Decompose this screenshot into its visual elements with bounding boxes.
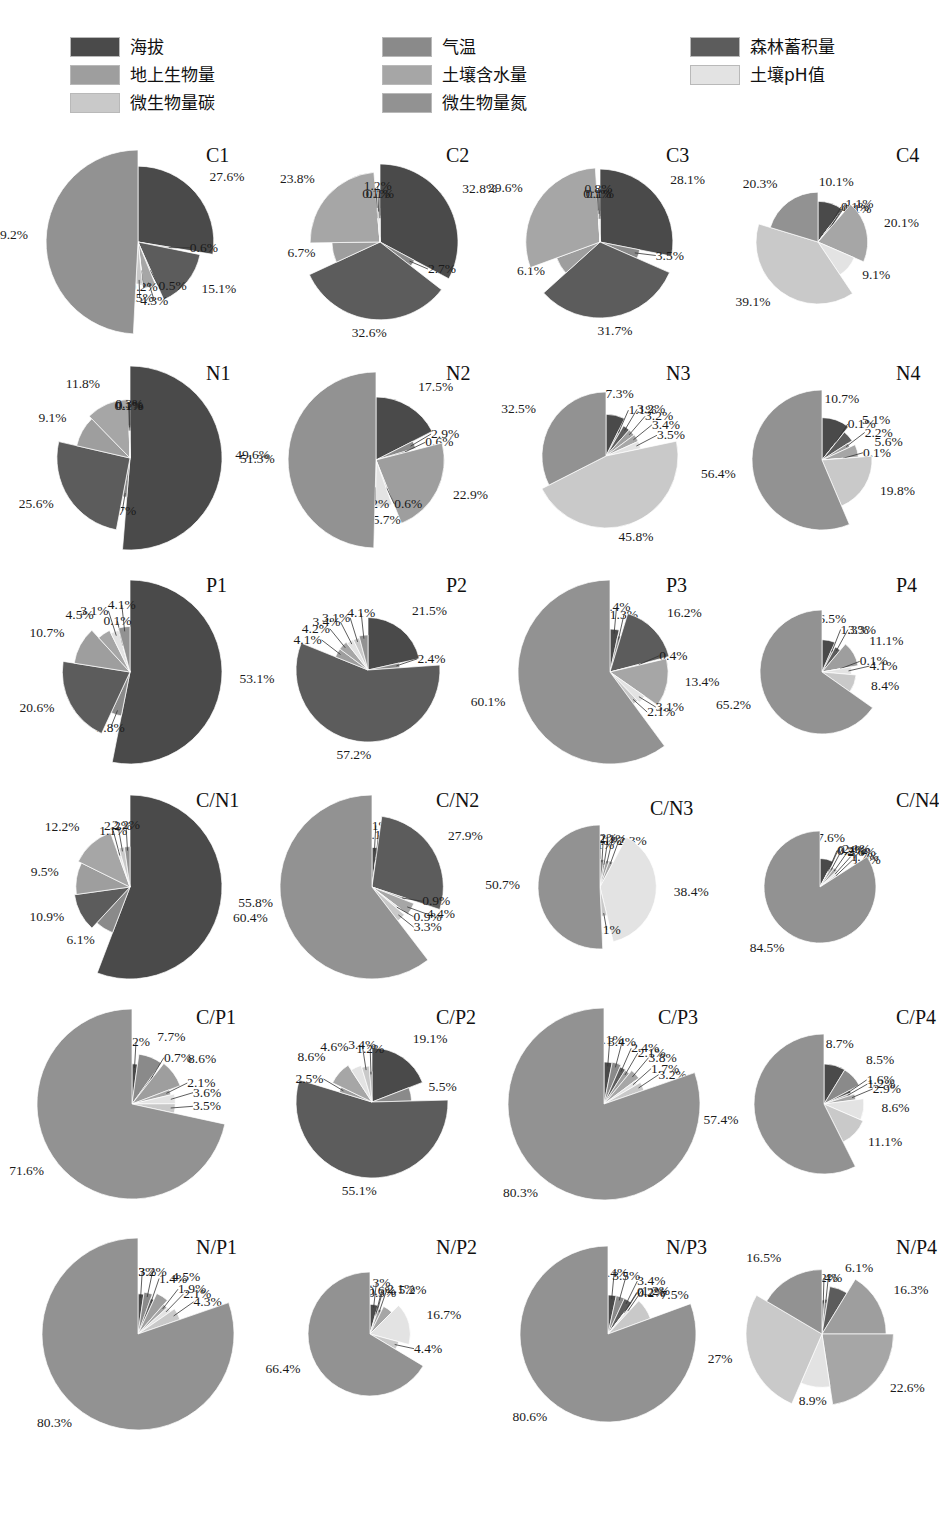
chart-cell: C/N30.1%2.2%1.1%2.1%2.3%38.4%3.1%50.7% — [480, 775, 718, 993]
rose-chart: 3.4%1.3%16.2%0.4%13.4%3.1%2.1%60.1% — [480, 560, 718, 778]
slice-label: 4.1% — [869, 658, 897, 673]
slice-label: 2.2% — [112, 817, 140, 832]
chart-cell: P221.5%2.4%57.2%4.1%4.2%3.4%3.1%4.1% — [250, 560, 488, 778]
slice-label: 20.1% — [884, 215, 919, 230]
rose-chart: 21.5%2.4%57.2%4.1%4.2%3.4%3.1%4.1% — [250, 560, 488, 778]
label-leader-line — [350, 618, 357, 642]
slice-label: 60.4% — [233, 910, 268, 925]
chart-cell: C/N47.6%0.2%0.4%2.1%2.6%1.7%1.4%84.5% — [700, 775, 938, 993]
slice-label: 4.1% — [108, 597, 136, 612]
legend-swatch-microbial-biomass-nitrogen — [382, 93, 432, 113]
slice-label: 27% — [708, 1351, 733, 1366]
slice-label: 0.5% — [159, 278, 187, 293]
slice-label: 19.8% — [880, 483, 915, 498]
chart-cell: C/P33.1%3.4%2.4%2.1%3.8%1.7%3.2%80.3% — [480, 992, 718, 1210]
slice-label: 8.9% — [799, 1393, 827, 1408]
rose-chart: 2.1%0.1%27.9%0.9%4.4%0.9%3.3%60.4% — [250, 775, 488, 993]
rose-chart: 3.4%3.5%3.4%0.2%0.2%1.2%7.5%80.6% — [480, 1222, 718, 1440]
slice-label: 39.1% — [736, 294, 771, 309]
slice-label: 5.7% — [373, 512, 401, 527]
chart-cell: C328.1%3.5%31.7%6.1%29.6%0.1%0.8%0.1% — [480, 130, 718, 348]
slice-label: 3.5% — [657, 427, 685, 442]
legend-label-altitude: 海拔 — [130, 38, 164, 56]
slice-label: 49.2% — [0, 227, 28, 242]
slice-label: 8.7% — [826, 1036, 854, 1051]
slice-label: 56.4% — [701, 466, 736, 481]
legend-swatch-forest-stock-volume — [690, 37, 740, 57]
label-leader-line — [174, 1302, 194, 1316]
pie-slice-microbial-biomass-nitrogen — [538, 825, 603, 949]
slice-label: 20.6% — [20, 700, 55, 715]
slice-label: 10.1% — [819, 174, 854, 189]
slice-label: 2.7% — [428, 261, 456, 276]
chart-cell: N/P41.2%1.4%6.1%16.3%22.6%8.9%27%16.5% — [700, 1222, 938, 1440]
slice-label: 6.7% — [287, 245, 315, 260]
rose-chart: 51.3%1.7%25.6%9.1%11.8%0.1%0.3%0.1% — [10, 348, 248, 566]
rose-chart: 8.7%8.5%1.6%1.2%2.9%8.6%11.1%57.4% — [700, 992, 938, 1210]
legend-column-3: 森林蓄积量土壤pH值 — [690, 34, 835, 90]
chart-cell: C/P48.7%8.5%1.6%1.2%2.9%8.6%11.1%57.4% — [700, 992, 938, 1210]
slice-label: 50.7% — [485, 877, 520, 892]
slice-label: 3.5% — [656, 248, 684, 263]
slice-label: 16.3% — [894, 1282, 929, 1297]
slice-label: 0.1% — [366, 186, 394, 201]
legend-label-forest-stock-volume: 森林蓄积量 — [750, 38, 835, 56]
chart-cell: N151.3%1.7%25.6%9.1%11.8%0.1%0.3%0.1% — [10, 348, 248, 566]
slice-label: 8.5% — [866, 1052, 894, 1067]
chart-cell: N/P24.3%0.6%0.3%2.1%5.2%16.7%4.4%66.4% — [250, 1222, 488, 1440]
slice-label: 65.2% — [716, 697, 751, 712]
slice-label: 22.6% — [890, 1380, 925, 1395]
slice-label: 3.1% — [322, 610, 350, 625]
slice-label: 0.6% — [394, 496, 422, 511]
chart-cell: C232.8%2.7%32.6%6.7%23.8%0.1%1.2%0.1% — [250, 130, 488, 348]
slice-label: 21.5% — [412, 603, 447, 618]
rose-chart: 0.1%2.2%1.1%2.1%2.3%38.4%3.1%50.7% — [480, 775, 718, 993]
slice-label: 10.7% — [824, 391, 859, 406]
slice-label: 23.8% — [280, 171, 315, 186]
label-leader-line — [636, 435, 657, 446]
slice-label: 2.9% — [873, 1081, 901, 1096]
rose-chart: 27.6%0.6%15.1%0.5%4.3%0.2%2.5%49.2% — [10, 130, 248, 348]
legend-label-soil-ph: 土壤pH值 — [750, 66, 825, 84]
slice-label: 6.1% — [845, 1260, 873, 1275]
slice-label: 16.2% — [667, 605, 702, 620]
chart-cell: C/N155.8%6.1%10.9%9.5%12.2%1.1%2.2%2.2% — [10, 775, 248, 993]
slice-label: 9.1% — [862, 267, 890, 282]
slice-label: 20.3% — [743, 176, 778, 191]
label-leader-line — [395, 1345, 414, 1349]
chart-cell: C410.1%0.1%1.1%0.1%20.1%9.1%39.1%20.3% — [700, 130, 938, 348]
legend-item-aboveground-biomass: 地上生物量 — [70, 62, 215, 88]
legend-item-microbial-biomass-carbon: 微生物量碳 — [70, 90, 215, 116]
pie-slice-altitude — [368, 618, 419, 671]
legend-item-air-temperature: 气温 — [382, 34, 527, 60]
slice-label: 6.1% — [67, 932, 95, 947]
slice-label: 0.1% — [116, 398, 144, 413]
chart-cell: N/P12.3%3.2%1.4%4.5%1.9%2.1%4.3%80.3% — [10, 1222, 248, 1440]
chart-cell: P153.1%3.8%20.6%10.7%4.5%3.1%0.1%4.1% — [10, 560, 248, 778]
legend-label-air-temperature: 气温 — [442, 38, 476, 56]
rose-chart: 7.6%0.2%0.4%2.1%2.6%1.7%1.4%84.5% — [700, 775, 938, 993]
pie-slice-microbial-biomass-nitrogen — [520, 1246, 696, 1422]
slice-label: 19.1% — [413, 1031, 448, 1046]
slice-label: 32.6% — [352, 325, 387, 340]
slice-label: 11.1% — [868, 1134, 902, 1149]
slice-label: 80.3% — [503, 1185, 538, 1200]
chart-cell: P46.5%1.3%3.3%11.1%0.1%4.1%8.4%65.2% — [700, 560, 938, 778]
rose-chart: 1.2%1.4%6.1%16.3%22.6%8.9%27%16.5% — [700, 1222, 938, 1440]
rose-chart: 53.1%3.8%20.6%10.7%4.5%3.1%0.1%4.1% — [10, 560, 248, 778]
slice-label: 3.5% — [193, 1098, 221, 1113]
rose-chart: 32.8%2.7%32.6%6.7%23.8%0.1%1.2%0.1% — [250, 130, 488, 348]
pie-slice-soil-water-content — [822, 1334, 893, 1405]
chart-cell: N410.7%0.1%5.1%2.2%5.6%0.1%19.8%56.4% — [700, 348, 938, 566]
chart-cell: C/N22.1%0.1%27.9%0.9%4.4%0.9%3.3%60.4% — [250, 775, 488, 993]
chart-cell: C/P219.1%5.5%55.1%2.5%8.6%4.6%3.4%1.2% — [250, 992, 488, 1210]
legend-swatch-aboveground-biomass — [70, 65, 120, 85]
pie-slice-microbial-biomass-nitrogen — [508, 1008, 700, 1200]
rose-chart: 10.1%0.1%1.1%0.1%20.1%9.1%39.1%20.3% — [700, 130, 938, 348]
rose-chart: 6.5%1.3%3.3%11.1%0.1%4.1%8.4%65.2% — [700, 560, 938, 778]
slice-label: 45.8% — [619, 529, 654, 544]
rose-chart: 10.7%0.1%5.1%2.2%5.6%0.1%19.8%56.4% — [700, 348, 938, 566]
slice-label: 4.1% — [347, 605, 375, 620]
slice-label: 16.5% — [746, 1250, 781, 1265]
legend-swatch-microbial-biomass-carbon — [70, 93, 120, 113]
